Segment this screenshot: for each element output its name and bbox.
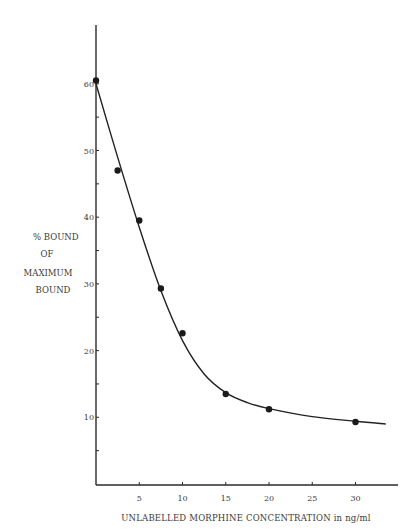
x-tick-label: 30 xyxy=(350,494,360,503)
y-ticks: 102030405060 xyxy=(84,80,99,451)
chart-canvas: 102030405060 51015202530 % BOUND OF MAXI… xyxy=(0,0,419,532)
x-tick-label: 10 xyxy=(177,494,187,503)
y-tick-label: 50 xyxy=(84,147,94,156)
fitted-curve xyxy=(96,84,386,424)
data-point xyxy=(158,285,164,291)
x-tick-label: 25 xyxy=(307,494,317,503)
y-tick-label: 10 xyxy=(84,413,94,422)
y-axis-title-line-2: OF xyxy=(41,249,54,259)
data-points xyxy=(93,77,359,425)
data-point xyxy=(179,330,185,336)
x-tick-label: 5 xyxy=(137,494,142,503)
y-tick-label: 30 xyxy=(84,280,94,289)
axes xyxy=(96,25,398,485)
y-axis-title-line-3: MAXIMUM xyxy=(24,268,73,278)
y-axis-title-line-4: BOUND xyxy=(36,285,71,295)
x-tick-label: 15 xyxy=(221,494,231,503)
fitted-curve-path xyxy=(96,84,386,424)
y-tick-label: 60 xyxy=(84,80,94,89)
data-point xyxy=(93,77,99,83)
x-tick-label: 20 xyxy=(264,494,274,503)
x-axis-title: UNLABELLED MORPHINE CONCENTRATION in ng/… xyxy=(121,513,371,523)
data-point xyxy=(136,217,142,223)
data-point xyxy=(223,391,229,397)
data-point xyxy=(114,167,120,173)
y-tick-label: 40 xyxy=(84,213,94,222)
y-axis-title-line-1: % BOUND xyxy=(33,232,79,242)
data-point xyxy=(266,406,272,412)
data-point xyxy=(352,419,358,425)
y-axis-title: % BOUND OF MAXIMUM BOUND xyxy=(24,232,79,295)
chart: 102030405060 51015202530 % BOUND OF MAXI… xyxy=(0,0,419,532)
y-tick-label: 20 xyxy=(84,347,94,356)
